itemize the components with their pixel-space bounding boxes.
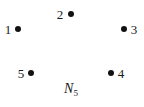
- vertex-4-label: 4: [118, 67, 125, 80]
- vertex-5-label: 5: [18, 67, 25, 80]
- caption-subscript: 5: [73, 88, 78, 98]
- graph-diagram: 1 2 3 4 5 N5: [0, 0, 144, 107]
- vertex-1-label: 1: [5, 23, 12, 36]
- vertex-5-dot: [28, 70, 34, 76]
- vertex-1-dot: [15, 26, 21, 32]
- caption-main: N: [64, 81, 73, 96]
- graph-caption: N5: [64, 81, 78, 98]
- vertex-2-dot: [68, 11, 74, 17]
- vertex-3-dot: [121, 26, 127, 32]
- vertex-3-label: 3: [131, 23, 138, 36]
- vertex-2-label: 2: [57, 8, 64, 21]
- vertex-4-dot: [108, 70, 114, 76]
